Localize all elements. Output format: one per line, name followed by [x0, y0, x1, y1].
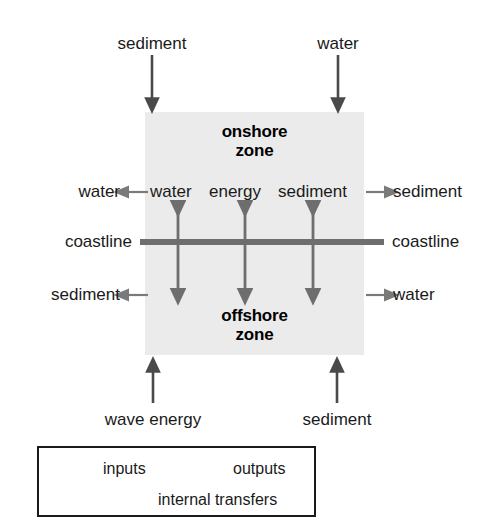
- input-label-bottom-wave-energy: wave energy: [83, 410, 223, 430]
- offshore-zone-label-line1: offshore: [145, 306, 364, 325]
- onshore-zone-label-line1: onshore: [145, 122, 364, 141]
- legend-label-outputs: outputs: [233, 460, 323, 478]
- internal-transfer-label-energy: energy: [209, 182, 279, 202]
- coastline-rule: [140, 239, 384, 245]
- output-label-onshore-left-water: water: [10, 182, 120, 202]
- onshore-zone-label-line2: zone: [145, 141, 364, 160]
- input-label-bottom-sediment: sediment: [279, 410, 395, 430]
- legend-label-inputs: inputs: [103, 460, 183, 478]
- input-label-top-sediment: sediment: [92, 34, 212, 54]
- output-label-onshore-right-sediment: sediment: [393, 182, 502, 202]
- legend-label-internal-transfers: internal transfers: [158, 491, 318, 509]
- offshore-zone-label: offshore zone: [145, 306, 364, 344]
- coastline-label-left: coastline: [8, 232, 132, 252]
- onshore-zone-label: onshore zone: [145, 122, 364, 160]
- input-label-top-water: water: [288, 34, 388, 54]
- offshore-zone-label-line2: zone: [145, 325, 364, 344]
- coastal-system-diagram: onshore zone offshore zone: [0, 0, 502, 531]
- output-label-offshore-right-water: water: [393, 285, 493, 305]
- internal-transfer-label-sediment: sediment: [278, 182, 368, 202]
- output-label-offshore-left-sediment: sediment: [6, 285, 120, 305]
- coastline-label-right: coastline: [392, 232, 502, 252]
